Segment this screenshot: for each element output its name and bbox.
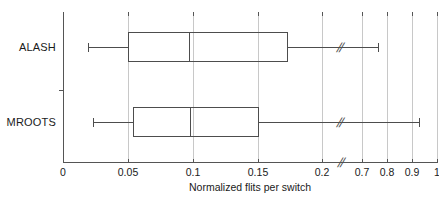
- x-tick-label-0.9: 0.9: [405, 166, 420, 178]
- x-tick-0.8: [387, 159, 388, 163]
- x-tick-0.2: [322, 159, 323, 163]
- whisker-cap-high-mroots: [419, 118, 420, 127]
- x-tick-top-0.2: [322, 12, 323, 16]
- x-tick-top-0.15: [258, 12, 259, 16]
- y-axis-midtick: [59, 90, 64, 91]
- x-tick-1: [437, 159, 438, 163]
- y-axis-line: [63, 15, 64, 162]
- x-axis-line: [63, 162, 438, 163]
- median-line-mroots: [190, 107, 191, 137]
- whisker-cap-low-mroots: [93, 118, 94, 127]
- x-tick-0.7: [362, 159, 363, 163]
- x-tick-0.1: [193, 159, 194, 163]
- x-tick-label-0: 0: [60, 166, 66, 178]
- x-tick-top-0.9: [412, 12, 413, 16]
- gridline-0.8: [387, 15, 388, 162]
- x-tick-label-0.15: 0.15: [248, 166, 268, 178]
- category-label-alash: ALASH: [0, 41, 56, 53]
- gridline-0.2: [322, 15, 323, 162]
- whisker-cap-high-alash: [378, 43, 379, 52]
- x-tick-top-0: [63, 12, 64, 16]
- x-tick-label-0.1: 0.1: [186, 166, 201, 178]
- gridline-1: [437, 15, 438, 162]
- x-tick-0.15: [258, 159, 259, 163]
- x-tick-label-1: 1: [434, 166, 439, 178]
- x-tick-top-0.7: [362, 12, 363, 16]
- x-tick-top-0.1: [193, 12, 194, 16]
- x-tick-0.05: [128, 159, 129, 163]
- x-tick-0: [63, 159, 64, 163]
- category-label-mroots: MROOTS: [0, 116, 56, 128]
- whisker-high-alash: [288, 47, 378, 48]
- gridline-0.7: [362, 15, 363, 162]
- median-line-alash: [189, 32, 190, 62]
- box-mroots: [133, 107, 259, 137]
- x-axis-title: Normalized flits per switch: [189, 181, 311, 193]
- whisker-cap-low-alash: [88, 43, 89, 52]
- x-tick-label-0.7: 0.7: [355, 166, 370, 178]
- x-tick-top-0.05: [128, 12, 129, 16]
- whisker-low-alash: [88, 47, 128, 48]
- gridline-0.9: [412, 15, 413, 162]
- whisker-low-mroots: [93, 122, 133, 123]
- x-tick-label-0.8: 0.8: [380, 166, 395, 178]
- x-tick-top-0.8: [387, 12, 388, 16]
- boxplot-chart: 00.050.10.150.20.70.80.91 ALASH MROOTS /…: [0, 0, 439, 202]
- x-tick-label-0.2: 0.2: [315, 166, 330, 178]
- box-alash: [128, 32, 288, 62]
- x-tick-label-0.05: 0.05: [118, 166, 138, 178]
- x-tick-0.9: [412, 159, 413, 163]
- x-tick-top-1: [437, 12, 438, 16]
